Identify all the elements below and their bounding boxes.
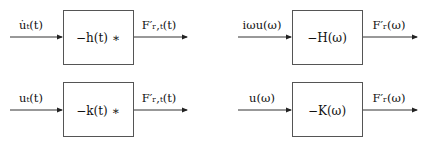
input-signal-label: iωu(ω) — [243, 19, 282, 32]
input-signal-label: u(ω) — [249, 92, 275, 105]
transfer-block-label: −K(ω) — [308, 104, 346, 118]
diagram-lines — [0, 0, 424, 142]
output-signal-label: F′ᵣ(ω) — [373, 92, 406, 105]
output-signal-label: F′ᵣ(ω) — [373, 19, 406, 32]
transfer-block-label: −H(ω) — [307, 31, 347, 45]
transfer-block-label: −h(t) ∗ — [76, 31, 120, 45]
output-signal-label: F′ᵣ,ₜ(t) — [142, 19, 177, 32]
input-signal-label: u̇ₜ(t) — [19, 19, 43, 32]
output-signal-label: F′ᵣ,ₜ(t) — [142, 92, 177, 105]
transfer-block-label: −k(t) ∗ — [76, 104, 119, 118]
input-signal-label: uₜ(t) — [19, 92, 43, 105]
block-diagrams: u̇ₜ(t) −h(t) ∗ F′ᵣ,ₜ(t) iωu(ω) −H(ω) F′ᵣ… — [0, 0, 424, 142]
